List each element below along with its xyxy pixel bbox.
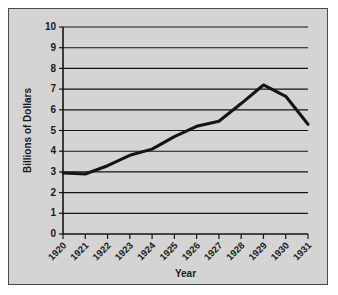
y-tick-label: 10 <box>45 21 57 32</box>
x-tick-label: 1927 <box>202 240 225 263</box>
y-tick-label: 4 <box>50 145 56 156</box>
x-tick-label: 1922 <box>90 240 113 263</box>
y-axis-title: Billions of Dollars <box>22 88 33 173</box>
gridlines <box>63 27 308 213</box>
y-tick-label: 8 <box>50 63 56 74</box>
y-tick-label: 0 <box>50 228 56 239</box>
chart-figure: 012345678910 192019211922192319241925192… <box>8 8 328 285</box>
x-tick-label: 1925 <box>157 239 180 262</box>
x-tick-label: 1923 <box>113 240 136 263</box>
x-tick-label: 1921 <box>68 239 91 262</box>
x-axis-ticks: 1920192119221923192419251926192719281929… <box>46 234 314 262</box>
x-tick-label: 1924 <box>135 239 158 262</box>
x-tick-label: 1926 <box>179 240 202 263</box>
y-tick-label: 1 <box>50 207 56 218</box>
y-tick-label: 6 <box>50 104 56 115</box>
x-axis-title: Year <box>175 268 196 279</box>
x-tick-label: 1931 <box>291 239 314 262</box>
y-tick-label: 5 <box>50 125 56 136</box>
line-chart: 012345678910 192019211922192319241925192… <box>9 9 329 286</box>
y-tick-label: 7 <box>50 83 56 94</box>
x-tick-label: 1930 <box>268 240 291 263</box>
data-series-line <box>63 85 308 174</box>
y-axis-ticks: 012345678910 <box>45 21 63 239</box>
y-tick-label: 2 <box>50 187 56 198</box>
x-tick-label: 1928 <box>224 240 247 263</box>
x-tick-label: 1929 <box>246 240 269 263</box>
x-tick-label: 1920 <box>46 240 69 263</box>
y-tick-label: 3 <box>50 166 56 177</box>
y-tick-label: 9 <box>50 42 56 53</box>
